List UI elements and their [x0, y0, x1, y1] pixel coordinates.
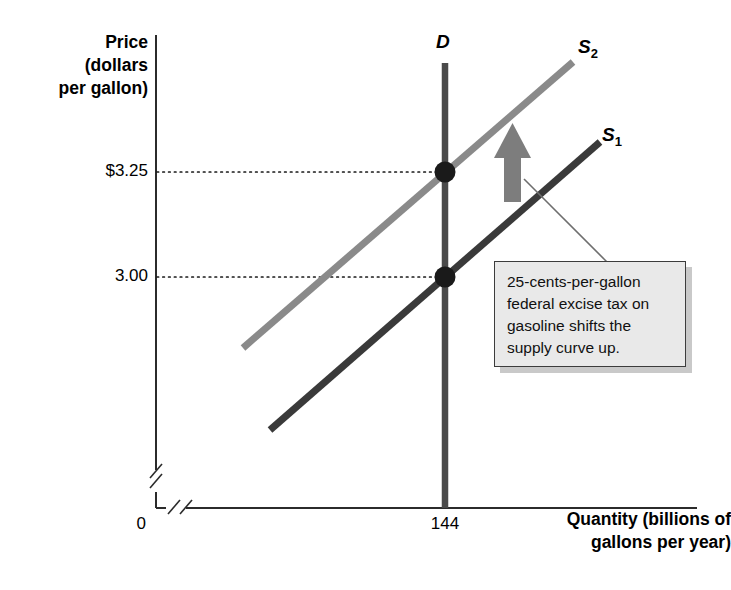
y-tick-label-325: $3.25	[38, 161, 148, 181]
tax-callout-box: 25-cents-per-gallon federal excise tax o…	[494, 261, 686, 367]
curve-label-s2-subscript: 2	[591, 46, 598, 61]
supply-demand-figure: Price (dollars per gallon) Quantity (bil…	[0, 0, 731, 590]
y-tick-label-300: 3.00	[38, 266, 148, 286]
curve-label-s1: S1	[602, 124, 622, 149]
curve-label-s1-letter: S	[602, 124, 615, 145]
callout-leader-line	[524, 179, 607, 262]
y-axis-title: Price (dollars per gallon)	[0, 31, 148, 100]
curve-label-d: D	[436, 31, 450, 53]
equilibrium-point-original	[435, 267, 456, 288]
equilibrium-point-new	[435, 162, 456, 183]
x-axis-title: Quantity (billions of gallons per year)	[505, 508, 731, 554]
tax-callout-text: 25-cents-per-gallon federal excise tax o…	[507, 271, 679, 359]
origin-label: 0	[100, 514, 146, 534]
curve-label-s1-subscript: 1	[615, 134, 622, 149]
curve-label-s2-letter: S	[578, 36, 591, 57]
curve-label-s2: S2	[578, 36, 598, 61]
x-axis-break-mark-1	[168, 500, 180, 514]
x-tick-label-144: 144	[410, 514, 480, 534]
supply-shift-arrow-icon	[494, 123, 531, 202]
